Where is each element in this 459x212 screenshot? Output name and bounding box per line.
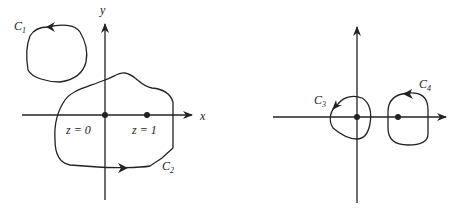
point-one-right	[395, 114, 401, 120]
point-origin-right	[354, 114, 360, 120]
contour-c4	[388, 93, 428, 145]
c2-label: C2	[162, 159, 174, 175]
c1-arrow-icon	[46, 22, 55, 32]
c4-arrow-icon	[403, 89, 413, 99]
c1-label: C1	[14, 19, 26, 35]
contour-diagram: x y z = 0 z = 1 C1 C2 C3 C4	[0, 0, 459, 212]
y-axis-label: y	[99, 3, 106, 17]
point-z0	[102, 112, 108, 118]
c4-label: C4	[419, 77, 431, 93]
point-z1	[144, 112, 150, 118]
x-axis-label: x	[199, 109, 206, 123]
contour-c2	[55, 73, 173, 168]
left-figure: x y z = 0 z = 1 C1 C2	[14, 3, 206, 200]
point-z1-label: z = 1	[131, 123, 157, 137]
c3-label: C3	[314, 93, 326, 109]
point-z0-label: z = 0	[65, 123, 91, 137]
right-figure: C3 C4	[273, 27, 446, 203]
contour-c1	[27, 25, 87, 82]
